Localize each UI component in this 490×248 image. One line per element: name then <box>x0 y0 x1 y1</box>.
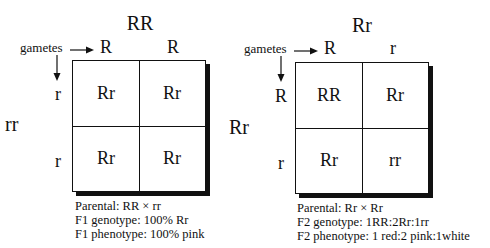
caption-phenotype: F2 phenotype: 1 red:2 pink:1white <box>297 229 470 243</box>
caption-genotype: F1 genotype: 100% Rr <box>75 213 205 227</box>
top-gamete-1: R <box>91 37 121 58</box>
grid-cell: Rr <box>296 128 362 193</box>
grid-cell: Rr <box>73 126 139 191</box>
side-gamete-1: R <box>266 86 296 107</box>
caption-parental: Parental: Rr × Rr <box>297 201 470 215</box>
punnett-grid: RR Rr Rr rr <box>295 62 429 194</box>
arrow-down-icon <box>53 55 61 81</box>
caption-parental: Parental: RR × rr <box>75 199 205 213</box>
caption: Parental: RR × rr F1 genotype: 100% Rr F… <box>75 199 205 241</box>
grid-cell: Rr <box>73 61 139 126</box>
punnett-grid: Rr Rr Rr Rr <box>72 60 206 192</box>
side-gamete-2: r <box>43 151 73 172</box>
parent-side-genotype: rr <box>5 113 18 136</box>
caption-phenotype: F1 phenotype: 100% pink <box>75 227 205 241</box>
top-gamete-2: r <box>378 38 408 59</box>
grid-cell: Rr <box>362 63 428 128</box>
caption-genotype: F2 genotype: 1RR:2Rr:1rr <box>297 215 470 229</box>
grid-cell: rr <box>362 128 428 193</box>
grid-cell: Rr <box>139 61 205 126</box>
side-gamete-2: r <box>266 153 296 174</box>
parent-top-genotype: Rr <box>322 14 402 37</box>
parent-side-genotype: Rr <box>229 116 249 139</box>
gametes-label: gametes <box>244 41 287 57</box>
gametes-label: gametes <box>20 40 63 56</box>
grid-cell: Rr <box>139 126 205 191</box>
parent-top-genotype: RR <box>100 12 180 35</box>
side-gamete-1: r <box>43 84 73 105</box>
grid-cell: RR <box>296 63 362 128</box>
arrow-down-icon <box>277 56 285 82</box>
top-gamete-1: R <box>315 38 345 59</box>
caption: Parental: Rr × Rr F2 genotype: 1RR:2Rr:1… <box>297 201 470 243</box>
top-gamete-2: R <box>158 37 188 58</box>
